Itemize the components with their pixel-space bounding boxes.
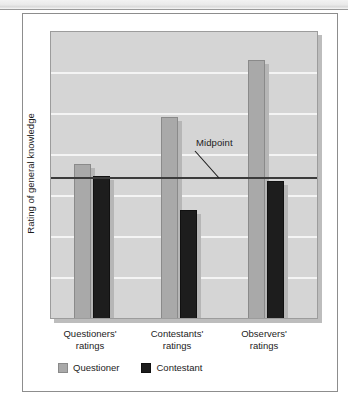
midpoint-reference-line bbox=[51, 177, 317, 179]
x-tick-line-2: ratings bbox=[209, 340, 319, 352]
gridline bbox=[51, 154, 317, 156]
gridline bbox=[51, 113, 317, 115]
bar-chart: Midpoint Rating of general knowledge Que… bbox=[0, 0, 348, 404]
bar-questioner-observers-ratings[interactable] bbox=[248, 60, 265, 319]
x-tick-observers-ratings: Observers' ratings bbox=[209, 328, 319, 351]
legend-item-questioner[interactable]: Questioner bbox=[58, 362, 119, 373]
legend-swatch-contestant-icon bbox=[141, 363, 151, 373]
legend-swatch-questioner-icon bbox=[58, 363, 68, 373]
legend-item-contestant[interactable]: Contestant bbox=[141, 362, 202, 373]
midpoint-annotation-label: Midpoint bbox=[196, 137, 233, 148]
bar-contestant-contestants-ratings[interactable] bbox=[180, 210, 197, 319]
chart-legend: Questioner Contestant bbox=[58, 362, 202, 373]
bar-contestant-observers-ratings[interactable] bbox=[267, 181, 284, 319]
legend-label-questioner: Questioner bbox=[73, 362, 119, 373]
bar-contestant-questioners-ratings[interactable] bbox=[93, 176, 110, 319]
gridline bbox=[51, 72, 317, 74]
bar-questioner-questioners-ratings[interactable] bbox=[74, 164, 91, 319]
bar-questioner-contestants-ratings[interactable] bbox=[161, 117, 178, 319]
y-axis-label: Rating of general knowledge bbox=[25, 84, 36, 264]
plot-area: Midpoint bbox=[50, 31, 318, 319]
x-tick-line-1: Observers' bbox=[209, 328, 319, 340]
legend-label-contestant: Contestant bbox=[156, 362, 202, 373]
